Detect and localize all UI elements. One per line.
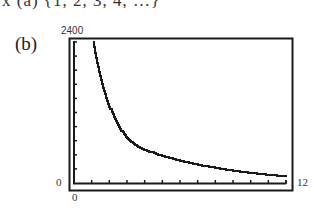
- calculator-graph: [0, 0, 314, 213]
- data-curve: [93, 42, 286, 177]
- outer-frame: [70, 39, 293, 191]
